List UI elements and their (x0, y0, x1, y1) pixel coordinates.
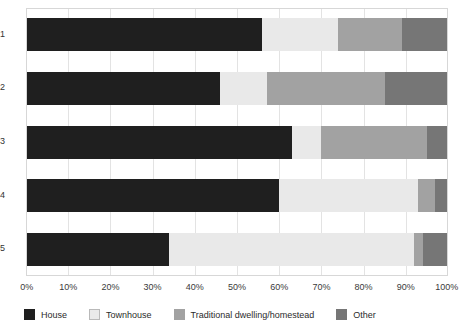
legend-swatch (89, 309, 100, 320)
x-axis-tick-label: 50% (228, 282, 246, 292)
x-axis-tick-label: 0% (20, 282, 33, 292)
bar-row[interactable] (26, 18, 448, 51)
bar-segment[interactable] (418, 179, 435, 212)
bar-segment[interactable] (423, 233, 448, 266)
legend-item[interactable]: House (24, 309, 67, 320)
x-axis-tick-label: 60% (270, 282, 288, 292)
bar-segment[interactable] (385, 72, 448, 105)
legend-swatch (24, 309, 35, 320)
bar-segment[interactable] (220, 72, 266, 105)
bar-segment[interactable] (292, 126, 322, 159)
bar-row[interactable] (26, 179, 448, 212)
y-axis-category-label: 4 (0, 190, 20, 201)
x-axis-tick-label: 90% (397, 282, 415, 292)
bar-segment[interactable] (338, 18, 401, 51)
bar-segment[interactable] (26, 233, 169, 266)
bar-segment[interactable] (267, 72, 385, 105)
bar-row[interactable] (26, 72, 448, 105)
x-axis-tick-label: 70% (312, 282, 330, 292)
bar-segment[interactable] (26, 72, 220, 105)
x-axis-tick-label: 10% (59, 282, 77, 292)
y-axis-category-label: 2 (0, 82, 20, 93)
bar-segment[interactable] (26, 179, 279, 212)
y-axis-category-label: 3 (0, 136, 20, 147)
legend-label: House (41, 310, 67, 320)
bar-row[interactable] (26, 233, 448, 266)
bar-segment[interactable] (321, 126, 427, 159)
legend-label: Traditional dwelling/homestead (191, 310, 315, 320)
stacked-bar-chart: 12345 0%10%20%30%40%50%60%70%80%90%100% … (0, 0, 464, 334)
legend-item[interactable]: Other (336, 309, 376, 320)
bar-segment[interactable] (414, 233, 422, 266)
bar-segment[interactable] (402, 18, 448, 51)
bar-segment[interactable] (262, 18, 338, 51)
legend-item[interactable]: Traditional dwelling/homestead (174, 309, 315, 320)
x-axis-tick-label: 100% (435, 282, 458, 292)
bar-segment[interactable] (435, 179, 448, 212)
bar-segment[interactable] (279, 179, 418, 212)
x-axis-tick-label: 20% (101, 282, 119, 292)
legend-swatch (174, 309, 185, 320)
bar-segment[interactable] (169, 233, 414, 266)
plot-area (26, 8, 448, 276)
bar-segment[interactable] (26, 126, 292, 159)
y-axis-category-label: 5 (0, 243, 20, 254)
x-axis-tick-labels: 0%10%20%30%40%50%60%70%80%90%100% (0, 282, 464, 296)
x-axis-tick-label: 80% (355, 282, 373, 292)
y-axis-category-label: 1 (0, 29, 20, 40)
chart-legend: HouseTownhouseTraditional dwelling/homes… (24, 309, 398, 320)
legend-label: Other (353, 310, 376, 320)
bar-row[interactable] (26, 126, 448, 159)
bar-segment[interactable] (26, 18, 262, 51)
legend-label: Townhouse (106, 310, 152, 320)
legend-swatch (336, 309, 347, 320)
bar-segment[interactable] (427, 126, 448, 159)
x-axis-tick-label: 40% (186, 282, 204, 292)
x-axis-tick-label: 30% (144, 282, 162, 292)
legend-item[interactable]: Townhouse (89, 309, 152, 320)
